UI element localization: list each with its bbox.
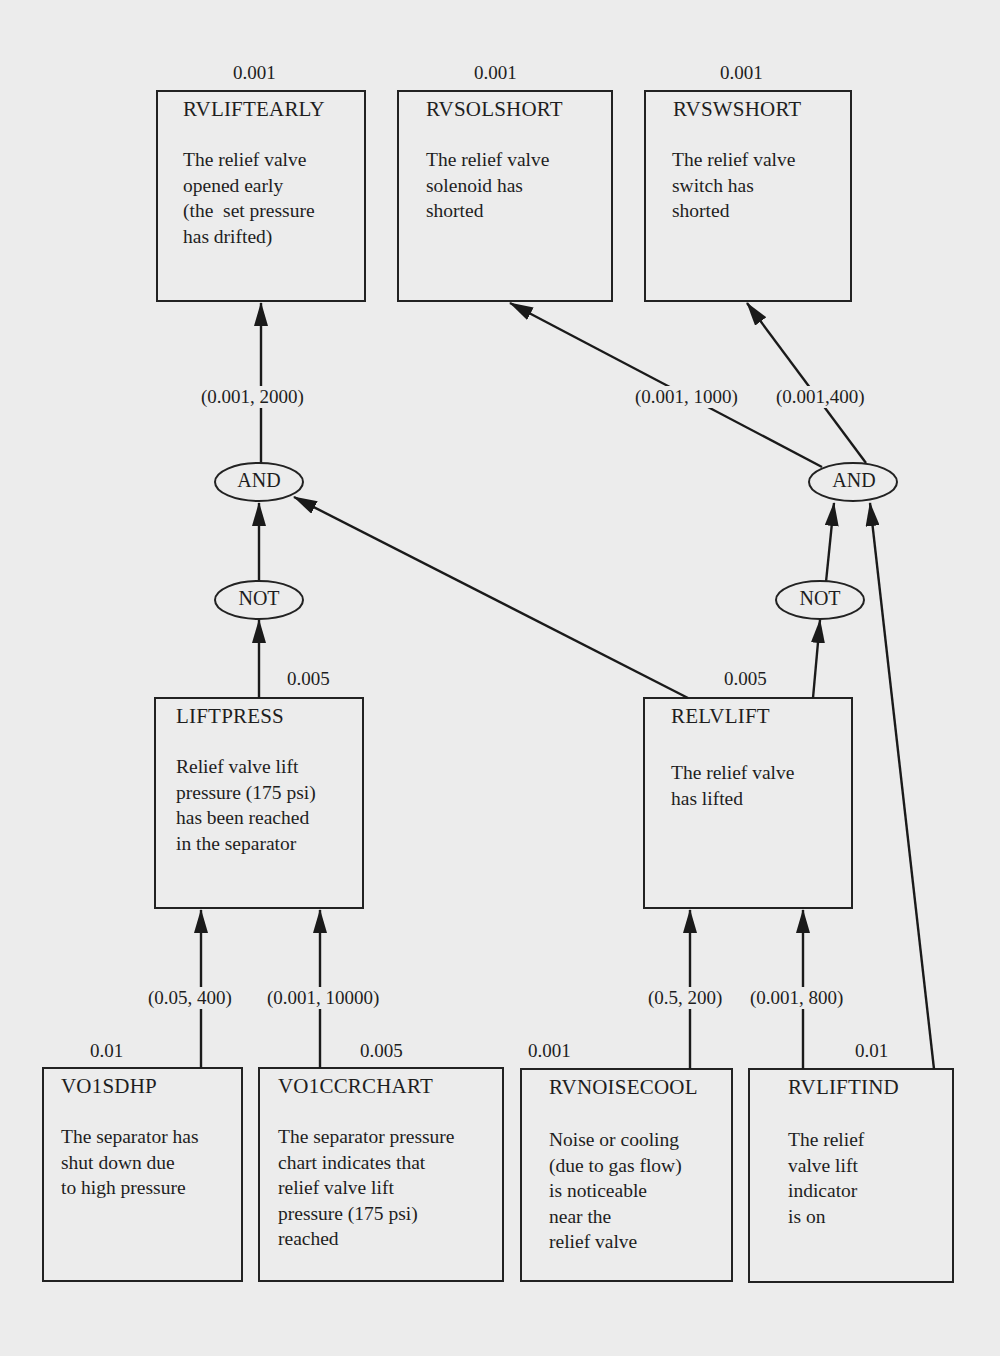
- vo1ccrchart-prob: 0.005: [360, 1040, 403, 1062]
- node-description: The relief valve lift indicator is on: [788, 1127, 864, 1229]
- node-rvswshort: RVSWSHORT The relief valve switch has sh…: [645, 91, 851, 301]
- node-description: Noise or cooling (due to gas flow) is no…: [549, 1127, 682, 1255]
- node-rvliftearly: RVLIFTEARLY The relief valve opened earl…: [157, 91, 365, 301]
- edge-label-and-left-rvliftearly: (0.001, 2000): [199, 386, 306, 408]
- edge-relvlift-and-left: [294, 497, 688, 698]
- node-description: The relief valve has lifted: [671, 760, 794, 811]
- node-description: The separator pressure chart indicates t…: [278, 1124, 455, 1252]
- node-description: The relief valve solenoid has shorted: [426, 147, 549, 224]
- rvnoisecool-prob: 0.001: [528, 1040, 571, 1062]
- node-name: RVNOISECOOL: [549, 1075, 698, 1100]
- node-name: RELVLIFT: [671, 704, 770, 729]
- not-gate-right-label: NOT: [775, 587, 865, 610]
- node-liftpress: LIFTPRESS Relief valve lift pressure (17…: [155, 698, 363, 908]
- edge-rvliftind-and-right: [870, 503, 934, 1069]
- edge-not-right-and-right: [826, 503, 834, 582]
- node-vo1sdhp: VO1SDHP The separator has shut down due …: [43, 1068, 242, 1281]
- node-name: RVLIFTEARLY: [183, 97, 325, 122]
- edge-label-rvnoisecool-relvlift: (0.5, 200): [646, 987, 724, 1009]
- node-name: RVSOLSHORT: [426, 97, 563, 122]
- node-rvliftind: RVLIFTIND The relief valve lift indicato…: [749, 1069, 953, 1282]
- rvliftind-prob: 0.01: [855, 1040, 888, 1062]
- node-rvnoisecool: RVNOISECOOL Noise or cooling (due to gas…: [521, 1069, 732, 1281]
- node-description: The separator has shut down due to high …: [61, 1124, 199, 1201]
- and-gate-left-label: AND: [214, 469, 304, 492]
- edge-and-right-rvswshort: [747, 303, 866, 463]
- not-gate-left-label: NOT: [214, 587, 304, 610]
- edge-label-and-right-rvswshort: (0.001,400): [774, 386, 867, 408]
- node-vo1ccrchart: VO1CCRCHART The separator pressure chart…: [259, 1068, 503, 1281]
- node-relvlift: RELVLIFT The relief valve has lifted: [644, 698, 852, 908]
- vo1sdhp-prob: 0.01: [90, 1040, 123, 1062]
- edge-label-vo1ccrchart-liftpress: (0.001, 10000): [265, 987, 381, 1009]
- node-description: The relief valve opened early (the set p…: [183, 147, 315, 249]
- rvswshort-prob: 0.001: [720, 62, 763, 84]
- edge-label-and-right-rvsolshort: (0.001, 1000): [633, 386, 740, 408]
- node-name: VO1CCRCHART: [278, 1074, 433, 1099]
- edge-label-vo1sdhp-liftpress: (0.05, 400): [146, 987, 234, 1009]
- edge-and-right-rvsolshort: [510, 303, 822, 467]
- node-rvsolshort: RVSOLSHORT The relief valve solenoid has…: [398, 91, 612, 301]
- relvlift-prob: 0.005: [724, 668, 767, 690]
- rvsolshort-prob: 0.001: [474, 62, 517, 84]
- rvliftearly-prob: 0.001: [233, 62, 276, 84]
- and-gate-right-label: AND: [809, 469, 899, 492]
- node-name: RVSWSHORT: [673, 97, 801, 122]
- edge-relvlift-not-right: [813, 620, 820, 698]
- node-description: The relief valve switch has shorted: [672, 147, 795, 224]
- node-name: VO1SDHP: [61, 1074, 157, 1099]
- node-description: Relief valve lift pressure (175 psi) has…: [176, 754, 316, 856]
- liftpress-prob: 0.005: [287, 668, 330, 690]
- node-name: LIFTPRESS: [176, 704, 284, 729]
- edge-label-rvliftind-relvlift: (0.001, 800): [748, 987, 845, 1009]
- node-name: RVLIFTIND: [788, 1075, 899, 1100]
